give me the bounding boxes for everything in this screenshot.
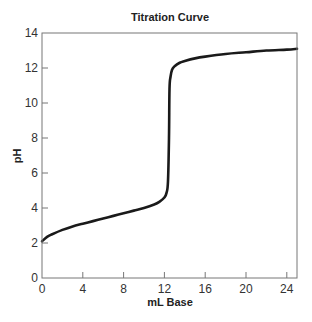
titration-curve-line	[42, 49, 297, 242]
x-tick-label: 16	[199, 282, 213, 296]
titration-chart: Titration Curve 02468101214 04812162024 …	[0, 0, 312, 322]
y-tick-label: 14	[25, 26, 39, 40]
y-tick-label: 2	[31, 236, 38, 250]
y-axis-ticks: 02468101214	[25, 26, 48, 285]
x-tick-label: 0	[39, 282, 46, 296]
chart-title: Titration Curve	[131, 11, 209, 23]
x-axis-ticks: 04812162024	[39, 272, 294, 296]
x-tick-label: 20	[239, 282, 253, 296]
x-tick-label: 4	[79, 282, 86, 296]
x-axis-label: mL Base	[147, 296, 193, 308]
y-tick-label: 6	[31, 166, 38, 180]
y-tick-label: 4	[31, 201, 38, 215]
y-tick-label: 0	[31, 271, 38, 285]
y-tick-label: 10	[25, 96, 39, 110]
chart-canvas: Titration Curve 02468101214 04812162024 …	[0, 0, 312, 322]
x-tick-label: 8	[120, 282, 127, 296]
x-tick-label: 24	[280, 282, 294, 296]
y-tick-label: 8	[31, 131, 38, 145]
x-tick-label: 12	[158, 282, 172, 296]
y-tick-label: 12	[25, 61, 39, 75]
y-axis-label: pH	[11, 149, 23, 164]
